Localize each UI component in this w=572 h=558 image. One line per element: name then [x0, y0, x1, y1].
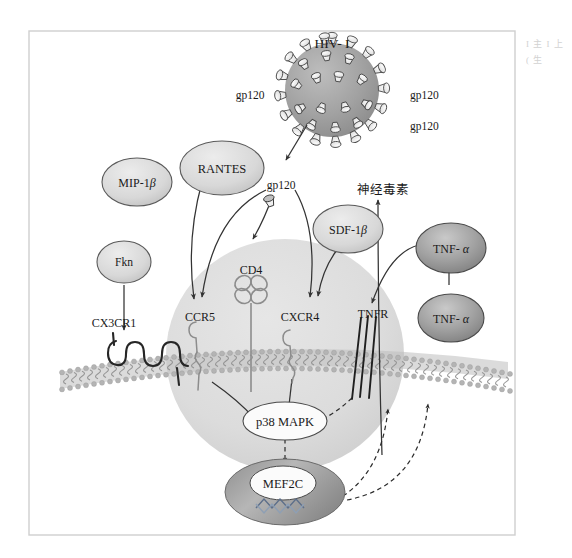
label-mef2c: MEF2C — [263, 477, 303, 491]
label-tnfa-lower: TNF- α — [433, 312, 470, 326]
label-rantes: RANTES — [198, 162, 247, 176]
label-gp120-right-upper: gp120 — [410, 89, 439, 102]
label-gp120-center: gp120 — [267, 179, 296, 192]
pathway-diagram: HIV- I gp120 gp120 gp120 gp120 MIP-1β RA… — [0, 0, 572, 558]
label-p38-mapk: p38 MAPK — [256, 415, 314, 429]
label-hiv1: HIV- I — [314, 36, 350, 51]
label-ccr5: CCR5 — [185, 310, 215, 324]
label-tnfa-upper: TNF- α — [433, 242, 470, 256]
label-gp120-right-lower: gp120 — [410, 120, 439, 133]
label-tnfr: TNFR — [358, 307, 389, 321]
label-cxcr4: CXCR4 — [281, 310, 320, 324]
nucleus — [225, 459, 345, 525]
label-fkn: Fkn — [115, 256, 133, 268]
label-cd4: CD4 — [240, 263, 263, 277]
label-neurotoxin: 神经毒素 — [357, 182, 409, 197]
page-margin-text: I 主 I 上 ( 生 — [526, 36, 566, 68]
label-mip1b: MIP-1β — [118, 176, 155, 190]
label-cx3cr1: CX3CR1 — [92, 316, 137, 330]
label-sdf1b: SDF-1β — [329, 223, 367, 237]
figure-root: HIV- I gp120 gp120 gp120 gp120 MIP-1β RA… — [0, 0, 572, 558]
label-gp120-left: gp120 — [236, 89, 265, 102]
